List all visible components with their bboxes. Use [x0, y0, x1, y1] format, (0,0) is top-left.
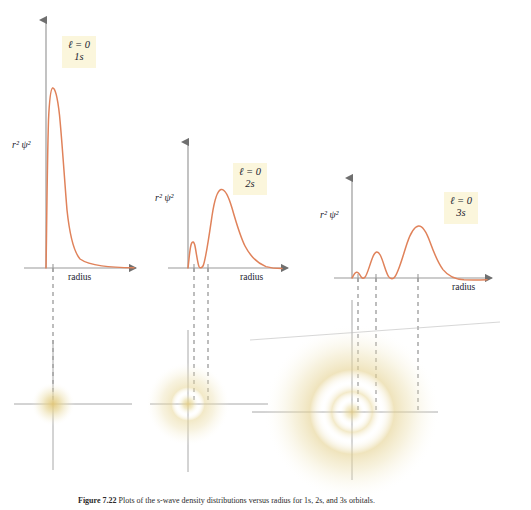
orbital-label-1s-line1: ℓ = 0: [68, 39, 90, 51]
y-axis-label-1s: r² ψ²: [12, 139, 31, 150]
orbital-label-2s-line2: 2s: [239, 178, 261, 190]
electron-cloud-1s: [31, 382, 75, 426]
y-axis-label-3s: r² ψ²: [320, 209, 339, 220]
curve-3s: [352, 226, 487, 280]
orbital-label-3s: ℓ = 0 3s: [444, 192, 478, 224]
y-axis-label-2s: r² ψ²: [155, 192, 174, 203]
curve-2s: [188, 189, 282, 268]
orbital-label-2s-line1: ℓ = 0: [239, 166, 261, 178]
orbital-label-2s: ℓ = 0 2s: [233, 163, 267, 195]
orbital-label-3s-line2: 3s: [450, 207, 472, 219]
figure-caption: Figure 7.22 Plots of the s-wave density …: [78, 496, 458, 509]
figure-radial-probability-s-orbitals: [0, 0, 531, 510]
figure-caption-label: Figure 7.22: [78, 496, 117, 505]
x-axis-label-2s: radius: [240, 272, 263, 282]
panel-1s: [14, 20, 136, 470]
orbital-label-1s: ℓ = 0 1s: [62, 36, 96, 68]
x-axis-label-1s: radius: [68, 272, 91, 282]
x-axis-label-3s: radius: [452, 282, 475, 292]
panel-3s: [250, 178, 500, 500]
electron-cloud-3s: [264, 324, 440, 500]
orbital-label-1s-line2: 1s: [68, 51, 90, 63]
figure-caption-text: Plots of the s-wave density distribution…: [119, 496, 375, 505]
orbital-label-3s-line1: ℓ = 0: [450, 195, 472, 207]
curve-1s: [46, 88, 134, 268]
electron-cloud-2s: [146, 362, 230, 446]
